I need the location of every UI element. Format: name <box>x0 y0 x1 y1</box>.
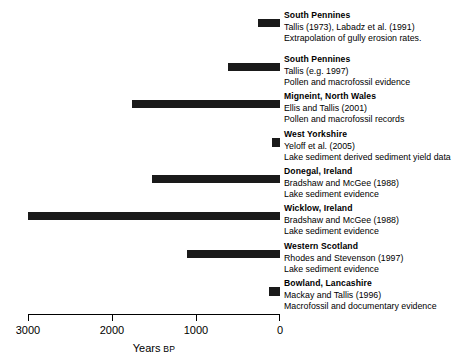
axis-tick-label: 2000 <box>92 324 132 336</box>
axis-tick-label: 0 <box>265 324 295 336</box>
entry-method: Lake sediment evidence <box>284 264 458 276</box>
entry-text-block: South Pennines Tallis (1973), Labadz et … <box>284 10 458 45</box>
axis-tick <box>196 314 197 321</box>
entry-text-block: South Pennines Tallis (e.g. 1997) Pollen… <box>284 54 458 89</box>
entry-citation: Tallis (e.g. 1997) <box>284 66 458 78</box>
timeline-bar <box>28 212 280 220</box>
chart-entry: Wicklow, Ireland Bradshaw and McGee (198… <box>0 203 458 243</box>
timeline-bar <box>258 19 280 27</box>
x-axis: 3000 2000 1000 0 Years BP <box>0 306 458 359</box>
chart-entry: West Yorkshire Yeloff et al. (2005) Lake… <box>0 129 458 169</box>
entry-text-block: Migneint, North Wales Ellis and Tallis (… <box>284 91 458 126</box>
entry-text-block: Wicklow, Ireland Bradshaw and McGee (198… <box>284 203 458 238</box>
axis-line <box>28 314 280 315</box>
entry-citation: Bradshaw and McGee (1988) <box>284 215 458 227</box>
timeline-bar <box>152 175 280 183</box>
timeline-bar <box>132 100 280 108</box>
entry-citation: Bradshaw and McGee (1988) <box>284 178 458 190</box>
entry-text-block: Donegal, Ireland Bradshaw and McGee (198… <box>284 166 458 201</box>
chart-entry: South Pennines Tallis (1973), Labadz et … <box>0 10 458 50</box>
entry-method: Pollen and macrofossil evidence <box>284 77 458 89</box>
entry-citation: Mackay and Tallis (1996) <box>284 290 458 302</box>
timeline-bar <box>269 287 280 296</box>
entry-method: Lake sediment derived sediment yield dat… <box>284 152 458 164</box>
entry-citation: Tallis (1973), Labadz et al. (1991) <box>284 22 458 34</box>
entry-region: South Pennines <box>284 10 458 22</box>
axis-title-main: Years <box>133 342 161 354</box>
chart-entry: Donegal, Ireland Bradshaw and McGee (198… <box>0 166 458 206</box>
entry-citation: Ellis and Tallis (2001) <box>284 103 458 115</box>
chart-entry: Western Scotland Rhodes and Stevenson (1… <box>0 241 458 281</box>
axis-tick <box>279 314 280 321</box>
entry-method: Extrapolation of gully erosion rates. <box>284 33 458 45</box>
axis-tick-label: 1000 <box>176 324 216 336</box>
axis-tick <box>28 314 29 321</box>
entry-region: Donegal, Ireland <box>284 166 458 178</box>
timeline-bar <box>187 250 280 258</box>
entry-region: West Yorkshire <box>284 129 458 141</box>
entry-region: Bowland, Lancashire <box>284 278 458 290</box>
entry-method: Lake sediment evidence <box>284 189 458 201</box>
axis-tick <box>112 314 113 321</box>
entry-region: Migneint, North Wales <box>284 91 458 103</box>
axis-title-bp: BP <box>163 344 175 354</box>
entry-citation: Yeloff et al. (2005) <box>284 141 458 153</box>
entry-text-block: Western Scotland Rhodes and Stevenson (1… <box>284 241 458 276</box>
entry-region: South Pennines <box>284 54 458 66</box>
entry-citation: Rhodes and Stevenson (1997) <box>284 253 458 265</box>
axis-title: Years BP <box>0 342 308 354</box>
erosion-chronology-chart: South Pennines Tallis (1973), Labadz et … <box>0 0 458 359</box>
entry-region: Wicklow, Ireland <box>284 203 458 215</box>
timeline-bar <box>272 138 280 147</box>
entry-region: Western Scotland <box>284 241 458 253</box>
chart-entry: Migneint, North Wales Ellis and Tallis (… <box>0 91 458 131</box>
chart-entry: South Pennines Tallis (e.g. 1997) Pollen… <box>0 54 458 94</box>
entry-method: Lake sediment evidence <box>284 226 458 238</box>
entry-method: Pollen and macrofossil records <box>284 114 458 126</box>
entry-text-block: West Yorkshire Yeloff et al. (2005) Lake… <box>284 129 458 164</box>
timeline-bar <box>228 63 280 71</box>
axis-tick-label: 3000 <box>8 324 48 336</box>
